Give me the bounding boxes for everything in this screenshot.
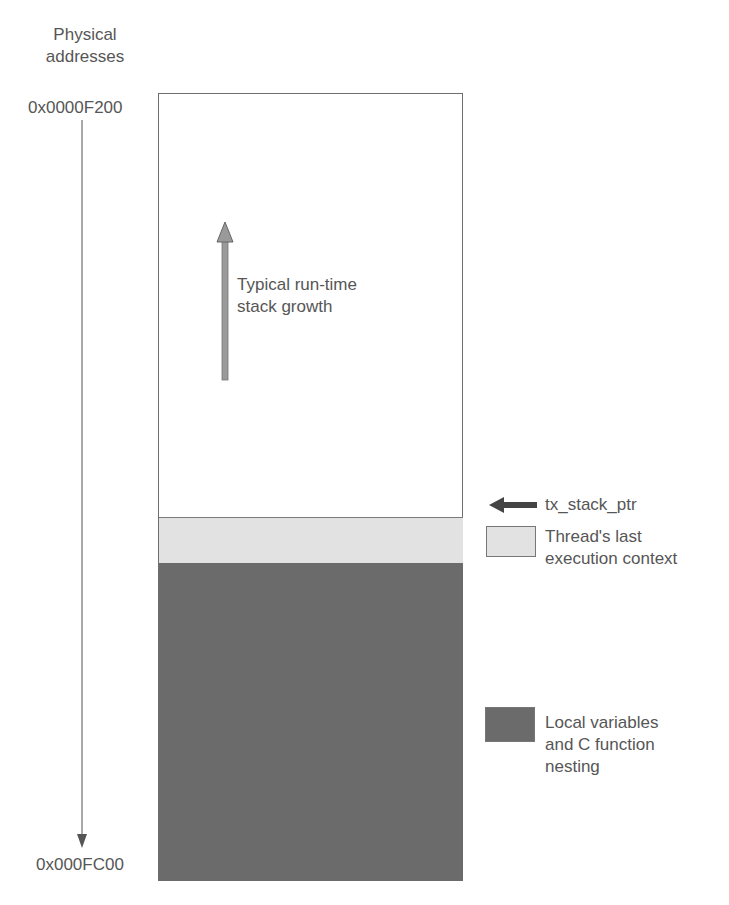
legend-swatch-context [486, 526, 536, 557]
legend-context-line2: execution context [545, 548, 677, 570]
legend-context-line1: Thread's last [545, 526, 677, 548]
legend-label-context: Thread's last execution context [545, 526, 677, 570]
stack-pointer-label: tx_stack_ptr [545, 494, 637, 516]
legend-locals-line3: nesting [545, 756, 658, 778]
legend-swatch-locals [485, 707, 535, 742]
legend-label-locals: Local variables and C function nesting [545, 712, 658, 778]
legend-locals-line2: and C function [545, 734, 658, 756]
legend-locals-line1: Local variables [545, 712, 658, 734]
